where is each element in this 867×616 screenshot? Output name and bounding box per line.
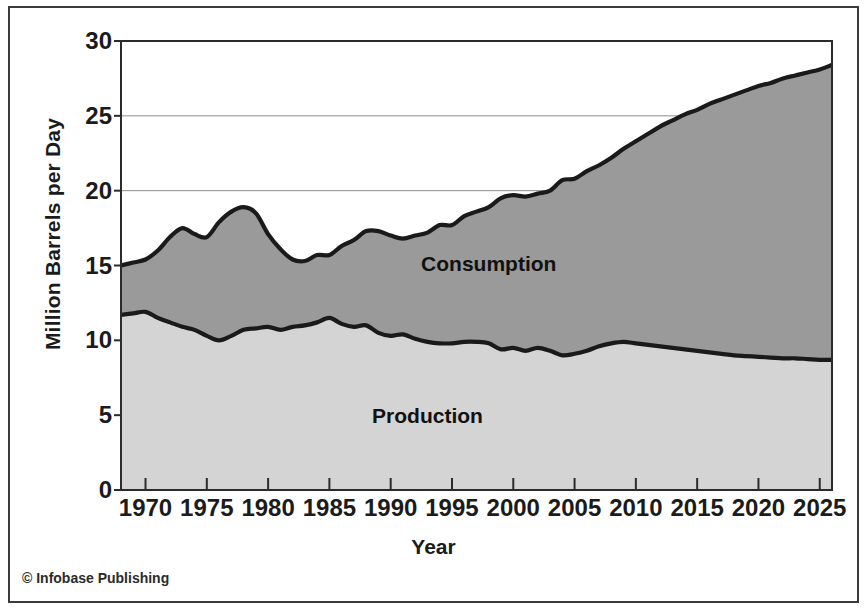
x-tick-label-2025: 2025	[775, 496, 865, 520]
x-axis-title: Year	[0, 535, 867, 559]
x-axis-tick-labels: 1970197519801985199019952000200520102015…	[0, 0, 867, 616]
copyright-credit: © Infobase Publishing	[22, 570, 169, 586]
figure-root: ConsumptionProduction Million Barrels pe…	[0, 0, 867, 616]
